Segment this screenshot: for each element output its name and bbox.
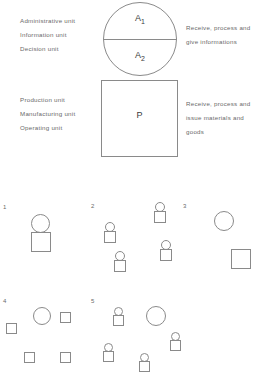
- configuration-number-3: 3: [183, 203, 186, 209]
- config-square-1-1: [31, 232, 51, 252]
- annotation-left-bottom-line-1: Production unit: [20, 93, 75, 107]
- config-square-4-1: [60, 312, 71, 323]
- annotation-left-bottom-line-2: Manufacturing unit: [20, 107, 75, 121]
- annotation-right-top-line-1: Receive, process and: [186, 21, 251, 35]
- config-square-3-1: [231, 249, 251, 269]
- configuration-number-5: 5: [91, 298, 94, 304]
- label-a1-subscript: 1: [141, 18, 145, 25]
- annotation-right-bottom-line-3: goods: [186, 125, 251, 139]
- configuration-number-2: 2: [91, 203, 94, 209]
- configuration-number-1: 1: [3, 204, 6, 210]
- annotation-right-top: Receive, process and give informations: [186, 21, 251, 49]
- config-circle-4-0: [33, 307, 51, 325]
- label-p: P: [101, 110, 178, 120]
- config-circle-1-0: [31, 214, 50, 233]
- config-square-5-8: [139, 361, 150, 372]
- config-square-2-1: [154, 211, 166, 223]
- config-square-2-3: [104, 231, 116, 243]
- config-square-5-4: [170, 340, 181, 351]
- label-a1: A1: [103, 13, 177, 25]
- annotation-left-bottom: Production unit Manufacturing unit Opera…: [20, 93, 75, 135]
- config-square-4-4: [60, 352, 71, 363]
- label-a2-subscript: 2: [141, 55, 145, 62]
- annotation-left-bottom-line-3: Operating unit: [20, 121, 75, 135]
- organization-schema: A1 A2 P Administrative unit Information …: [0, 0, 270, 190]
- config-square-2-7: [114, 260, 126, 272]
- config-square-4-3: [24, 352, 35, 363]
- circle-divider-line: [103, 39, 177, 40]
- annotation-left-top-line-2: Information unit: [20, 28, 75, 42]
- config-circle-3-0: [214, 211, 234, 231]
- annotation-right-bottom-line-2: issue materials and: [186, 111, 251, 125]
- annotation-right-bottom-line-1: Receive, process and: [186, 97, 251, 111]
- config-square-4-2: [6, 323, 17, 334]
- config-square-5-6: [103, 351, 114, 362]
- label-a2: A2: [103, 50, 177, 62]
- config-square-5-2: [113, 315, 124, 326]
- configuration-variants: 12345: [0, 190, 270, 383]
- annotation-left-top-line-3: Decision unit: [20, 42, 75, 56]
- config-square-2-5: [160, 249, 172, 261]
- annotation-left-top-line-1: Administrative unit: [20, 14, 75, 28]
- configuration-number-4: 4: [3, 298, 6, 304]
- annotation-right-bottom: Receive, process and issue materials and…: [186, 97, 251, 139]
- annotation-right-top-line-2: give informations: [186, 35, 251, 49]
- config-circle-5-0: [146, 306, 166, 326]
- annotation-left-top: Administrative unit Information unit Dec…: [20, 14, 75, 56]
